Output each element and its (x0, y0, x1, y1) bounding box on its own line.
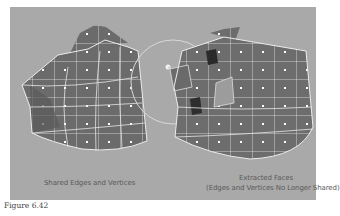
left-mesh (22, 25, 147, 151)
mesh-illustration (10, 7, 316, 200)
figure-image: Shared Edges and Vertices Extracted Face… (10, 7, 316, 200)
right-mesh (170, 27, 313, 159)
left-caption: Shared Edges and Vertices (44, 179, 135, 187)
figure-label: Figure 6.42 (4, 201, 48, 210)
extracted-face (170, 65, 192, 91)
right-caption: Extracted Faces (Edges and Vertices No L… (206, 173, 326, 193)
right-caption-line1: Extracted Faces (206, 173, 326, 183)
right-caption-line2: (Edges and Vertices No Longer Shared) (206, 183, 326, 193)
